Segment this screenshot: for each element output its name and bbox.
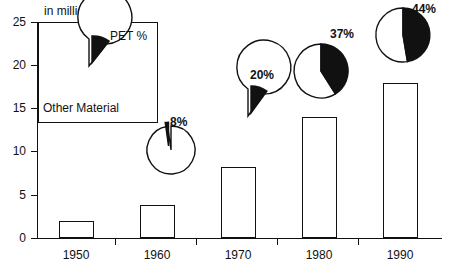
x-tick-3 <box>358 238 359 245</box>
pie-label-1960: 8% <box>170 115 187 129</box>
bar-1960 <box>140 205 175 238</box>
legend-label-pet: PET % <box>110 29 147 43</box>
y-tick-10 <box>31 151 38 152</box>
y-tick-label-25: 25 <box>0 15 26 29</box>
y-tick-label-20: 20 <box>0 58 26 72</box>
pie-label-1980: 37% <box>330 27 354 41</box>
bar-1980 <box>302 117 337 238</box>
pie-label-1990: 44% <box>412 2 436 16</box>
y-tick-5 <box>31 195 38 196</box>
x-tick-label-1960: 1960 <box>127 248 187 262</box>
pie-1960 <box>143 122 199 178</box>
y-tick-15 <box>31 108 38 109</box>
y-tick-25 <box>31 22 38 23</box>
y-tick-label-15: 15 <box>0 101 26 115</box>
x-tick-0 <box>115 238 116 245</box>
y-tick-label-5: 5 <box>0 188 26 202</box>
y-tick-label-0: 0 <box>0 231 26 245</box>
y-tick-0 <box>31 238 38 239</box>
chart-canvas: in million tons 25 20 15 10 5 0 1950 196… <box>0 0 451 272</box>
x-tick-label-1990: 1990 <box>370 248 430 262</box>
x-tick-2 <box>277 238 278 245</box>
pie-1970 <box>217 85 279 147</box>
bar-1970 <box>221 167 256 238</box>
pie-label-1970: 20% <box>250 68 274 82</box>
bar-1950 <box>59 221 94 238</box>
x-tick-1 <box>196 238 197 245</box>
y-tick-20 <box>31 65 38 66</box>
x-tick-label-1970: 1970 <box>208 248 268 262</box>
x-tick-label-1980: 1980 <box>289 248 349 262</box>
pie-1980 <box>290 40 352 102</box>
legend-label-other: Other Material <box>43 101 119 115</box>
x-tick-label-1950: 1950 <box>46 248 106 262</box>
bar-1990 <box>383 83 418 238</box>
x-axis-line <box>37 238 442 239</box>
y-tick-label-10: 10 <box>0 144 26 158</box>
